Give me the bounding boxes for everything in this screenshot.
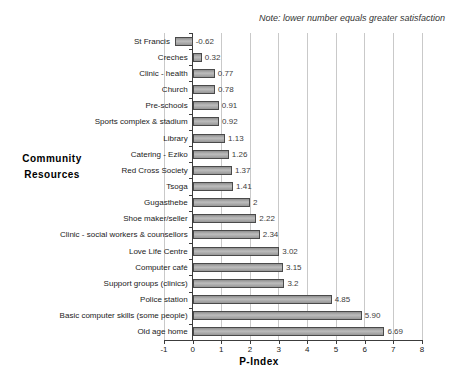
bar [193,101,219,110]
x-axis-tick-label: 0 [181,345,205,354]
category-axis-tick [189,243,193,244]
x-axis-tick [250,340,251,344]
category-label: St Francis [0,33,170,49]
bar [193,150,229,159]
x-axis-tick [193,340,194,344]
plot-area: -0.620.320.770.780.910.921.131.261.371.4… [164,33,422,340]
value-label: 5.90 [365,308,381,324]
category-label: Gugasthebe [0,195,188,211]
value-label: 0.77 [218,65,234,81]
category-label: Pre-schools [0,98,188,114]
category-label: Church [0,81,188,97]
value-label: 3.2 [287,275,298,291]
x-axis-tick [422,340,423,344]
category-label: Sports complex & stadium [0,114,188,130]
bar [193,263,283,272]
bar [193,295,332,304]
bar [193,85,215,94]
category-label: Creches [0,49,188,65]
bar [193,247,280,256]
category-label: Clinic - health [0,65,188,81]
category-label: Tsoga [0,178,188,194]
gridline [307,33,308,340]
value-label: 0.92 [222,114,238,130]
bar [193,182,233,191]
value-label: -0.62 [196,33,214,49]
category-axis-tick [189,65,193,66]
bar [193,311,362,320]
category-label: Shoe maker/seller [0,211,188,227]
category-axis-tick [189,308,193,309]
value-label: 6.69 [387,324,403,340]
category-axis-tick [189,324,193,325]
category-axis-tick [189,114,193,115]
value-label: 2 [253,195,257,211]
bar [193,53,202,62]
x-axis-tick-label: 8 [410,345,434,354]
category-axis-tick [189,49,193,50]
bar [193,279,285,288]
value-label: 1.37 [235,162,251,178]
bar [175,37,193,46]
chart: Note: lower number equals greater satisf… [0,0,449,387]
x-axis-title: P-Index [194,356,324,367]
bar [193,327,385,336]
value-label: 2.22 [259,211,275,227]
category-label: Basic computer skills (some people) [0,308,188,324]
category-axis-tick [189,178,193,179]
gridline [364,33,365,340]
chart-note: Note: lower number equals greater satisf… [259,13,445,23]
category-axis-tick [189,227,193,228]
x-axis-tick-label: 6 [353,345,377,354]
x-axis-tick [164,340,165,344]
x-axis-tick-label: 2 [238,345,262,354]
gridline [278,33,279,340]
category-label: Police station [0,292,188,308]
value-label: 3.02 [282,243,298,259]
category-label: Old age home [0,324,188,340]
gridline [422,33,423,340]
x-axis-tick-label: 5 [324,345,348,354]
value-label: 1.41 [236,178,252,194]
category-axis-tick [189,162,193,163]
category-axis-tick [189,81,193,82]
x-axis-tick [365,340,366,344]
category-label: Clinic - social workers & counsellors [0,227,188,243]
bar [193,198,250,207]
bar [193,134,225,143]
value-label: 1.13 [228,130,244,146]
x-axis-tick-label: 4 [295,345,319,354]
value-label: 3.15 [286,259,302,275]
value-label: 0.78 [218,81,234,97]
gridline [393,33,394,340]
x-axis-line [164,340,423,341]
x-axis-tick-label: 7 [381,345,405,354]
category-axis-tick [189,211,193,212]
x-axis-tick [336,340,337,344]
x-axis-tick-label: -1 [152,345,176,354]
category-label: Library [0,130,188,146]
x-axis-tick [221,340,222,344]
category-axis-tick [189,146,193,147]
bar [193,214,257,223]
category-label: Computer café [0,259,188,275]
category-label: Support groups (clinics) [0,275,188,291]
x-axis-tick-label: 1 [209,345,233,354]
bar [193,166,232,175]
category-axis-tick [189,130,193,131]
x-axis-tick [279,340,280,344]
x-axis-tick-label: 3 [267,345,291,354]
category-label: Red Cross Society [0,162,188,178]
bar [193,117,219,126]
category-axis-tick [189,259,193,260]
category-axis-tick [189,98,193,99]
category-label: Love Life Centre [0,243,188,259]
category-axis-tick [189,195,193,196]
category-axis-tick [189,275,193,276]
category-label: Catering - Eziko [0,146,188,162]
value-label: 1.26 [232,146,248,162]
category-axis-tick [189,33,193,34]
value-label: 4.85 [335,292,351,308]
bar [193,230,260,239]
value-label: 2.34 [263,227,279,243]
